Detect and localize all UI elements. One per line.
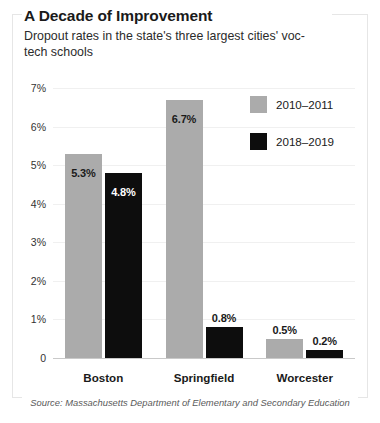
bar-boston-2018[interactable] <box>105 173 142 358</box>
chart-legend: 2010–2011 2018–2019 <box>250 96 334 170</box>
y-axis-tick-label: 5% <box>20 159 46 171</box>
plot-area: 01%2%3%4%5%6%7%5.3%4.8%Boston6.7%0.8%Spr… <box>0 0 380 423</box>
bar-worcester-2018[interactable] <box>306 350 343 358</box>
y-axis-tick-label: 2% <box>20 275 46 287</box>
legend-swatch-icon-2018 <box>250 133 267 150</box>
y-axis-tick-label: 3% <box>20 236 46 248</box>
y-axis-tick-label: 7% <box>20 82 46 94</box>
bar-value-label: 5.3% <box>65 167 102 179</box>
bar-value-label: 4.8% <box>105 186 142 198</box>
chart-source: Source: Massachusetts Department of Elem… <box>0 392 380 410</box>
axis-baseline <box>53 358 355 359</box>
legend-label-2018: 2018–2019 <box>276 135 334 148</box>
chart-title: A Decade of Improvement <box>24 6 218 26</box>
x-axis-category-label: Springfield <box>174 371 235 384</box>
chart-header: A Decade of Improvement Dropout rates in… <box>22 6 332 62</box>
chart-subtitle: Dropout rates in the state's three large… <box>24 29 310 60</box>
bar-value-label: 0.8% <box>206 312 243 324</box>
legend-label-2010: 2010–2011 <box>276 98 333 111</box>
gridline-7 <box>53 88 355 89</box>
source-text: Source: Massachusetts Department of Elem… <box>22 397 357 408</box>
x-axis-category-label: Boston <box>83 371 123 384</box>
y-axis-tick-label: 4% <box>20 198 46 210</box>
legend-swatch-icon-2010 <box>250 96 267 113</box>
bar-springfield-2010[interactable] <box>166 100 203 358</box>
y-axis-tick-label: 0 <box>20 352 46 364</box>
bar-value-label: 6.7% <box>166 113 203 125</box>
x-axis-category-label: Worcester <box>276 371 333 384</box>
y-axis-tick-label: 6% <box>20 121 46 133</box>
bar-boston-2010[interactable] <box>65 154 102 358</box>
legend-item-2018[interactable]: 2018–2019 <box>250 133 334 150</box>
bar-springfield-2018[interactable] <box>206 327 243 358</box>
bar-value-label: 0.5% <box>266 324 303 336</box>
bar-value-label: 0.2% <box>306 335 343 347</box>
chart-figure: A Decade of Improvement Dropout rates in… <box>0 0 380 423</box>
y-axis-tick-label: 1% <box>20 313 46 325</box>
bar-worcester-2010[interactable] <box>266 339 303 358</box>
legend-item-2010[interactable]: 2010–2011 <box>250 96 334 113</box>
